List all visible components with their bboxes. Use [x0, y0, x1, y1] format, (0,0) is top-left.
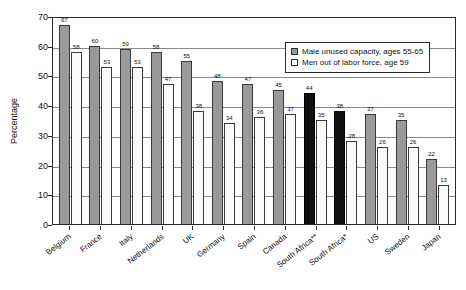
x-axis-tick-slot: Germany	[208, 226, 239, 286]
y-axis-tick-label: 70	[38, 12, 48, 22]
y-axis-tick-label: 10	[38, 190, 48, 200]
bar-value-label: 53	[104, 59, 111, 66]
bar-wrapper: 45	[273, 18, 284, 224]
bar	[396, 120, 407, 224]
bar	[242, 84, 253, 224]
bar-wrapper: 38	[193, 18, 204, 224]
bar-value-label: 47	[165, 76, 172, 83]
legend-item: Men out of labor force, age 59	[291, 57, 423, 68]
legend-item: Male unused capacity, ages 55-65	[291, 46, 423, 57]
bar-wrapper: 48	[212, 18, 223, 224]
bar-group: 5847	[147, 18, 178, 224]
bar	[120, 49, 131, 224]
bar	[438, 185, 449, 224]
legend-swatch-icon	[291, 59, 298, 66]
bar	[132, 67, 143, 224]
x-axis-tick-label-text: US	[366, 232, 380, 246]
bar-chart: Percentage 010203040506070 6758605359535…	[0, 0, 466, 290]
legend: Male unused capacity, ages 55-65 Men out…	[285, 42, 430, 73]
bar	[59, 25, 70, 224]
bar-value-label: 45	[275, 82, 282, 89]
bar-wrapper: 67	[59, 18, 70, 224]
bar-value-label: 47	[245, 76, 252, 83]
bar-group: 6758	[55, 18, 86, 224]
bar-wrapper: 58	[71, 18, 82, 224]
bar	[212, 81, 223, 224]
bar-value-label: 38	[336, 103, 343, 110]
bar-value-label: 48	[214, 73, 221, 80]
bar-value-label: 13	[440, 177, 447, 184]
y-axis-tick-label: 40	[38, 101, 48, 111]
bar-group: 5538	[177, 18, 208, 224]
bar-wrapper: 60	[89, 18, 100, 224]
y-axis-tick-label: 50	[38, 71, 48, 81]
y-axis: Percentage 010203040506070	[0, 17, 52, 225]
x-axis-tick-label-text: UK	[182, 232, 196, 246]
x-axis-tick-slot: Spain	[239, 226, 270, 286]
bar-value-label: 22	[428, 151, 435, 158]
bar-value-label: 44	[306, 85, 313, 92]
x-tick-labels: BelgiumFranceItalyNetherlandsUKGermanySp…	[52, 226, 456, 286]
x-axis: BelgiumFranceItalyNetherlandsUKGermanySp…	[52, 226, 456, 290]
bar-value-label: 59	[122, 41, 129, 48]
bar-wrapper: 13	[438, 18, 449, 224]
bar-wrapper: 53	[101, 18, 112, 224]
bar-value-label: 26	[410, 139, 417, 146]
bar	[163, 84, 174, 224]
bar	[254, 117, 265, 224]
bar	[408, 147, 419, 224]
bar-value-label: 37	[287, 106, 294, 113]
legend-item-label: Men out of labor force, age 59	[302, 57, 409, 68]
y-axis-title: Percentage	[9, 76, 19, 166]
x-axis-tick-slot: Netherlands	[146, 226, 177, 286]
bar-value-label: 60	[92, 38, 99, 45]
bar-group: 4736	[239, 18, 270, 224]
x-axis-tick-label-text: Belgium	[45, 232, 73, 257]
x-axis-tick-slot: Sweden	[392, 226, 423, 286]
bar-group: 6053	[86, 18, 117, 224]
plot-area: 6758605359535847553848344736453744353828…	[52, 17, 456, 225]
bar	[181, 61, 192, 224]
bar	[273, 90, 284, 224]
bar	[285, 114, 296, 224]
bar	[71, 52, 82, 224]
y-axis-tick-label: 30	[38, 131, 48, 141]
bar-wrapper: 47	[242, 18, 253, 224]
bar	[304, 93, 315, 224]
x-axis-tick-slot: France	[85, 226, 116, 286]
legend-item-label: Male unused capacity, ages 55-65	[302, 46, 423, 57]
bar-value-label: 35	[398, 112, 405, 119]
bar-value-label: 67	[61, 17, 68, 24]
bar	[316, 120, 327, 224]
bar-value-label: 55	[183, 53, 190, 60]
bar	[151, 52, 162, 224]
bar-wrapper: 58	[151, 18, 162, 224]
bar	[334, 111, 345, 224]
x-axis-tick-slot: Japan	[423, 226, 454, 286]
bar-wrapper: 36	[254, 18, 265, 224]
y-axis-tick-label: 0	[43, 220, 48, 230]
bar-wrapper: 55	[181, 18, 192, 224]
bar-value-label: 58	[153, 44, 160, 51]
y-axis-tick-label: 20	[38, 161, 48, 171]
x-axis-tick-slot: Belgium	[54, 226, 85, 286]
x-axis-tick-slot: South Africa*	[331, 226, 362, 286]
bar	[224, 123, 235, 224]
bar-group: 5953	[116, 18, 147, 224]
x-axis-tick-label-text: Italy	[117, 232, 134, 248]
bar-value-label: 53	[134, 59, 141, 66]
legend-swatch-icon	[291, 48, 298, 55]
bar-value-label: 37	[367, 106, 374, 113]
bar-wrapper: 34	[224, 18, 235, 224]
bar-value-label: 36	[257, 109, 264, 116]
bar-value-label: 38	[195, 103, 202, 110]
bar-value-label: 34	[226, 115, 233, 122]
x-axis-tick-label-text: Japan	[419, 232, 442, 253]
bar	[89, 46, 100, 224]
bar-value-label: 35	[318, 112, 325, 119]
bar-value-label: 28	[348, 133, 355, 140]
bar	[101, 67, 112, 224]
bar-group: 4834	[208, 18, 239, 224]
bar-wrapper: 59	[120, 18, 131, 224]
bar-wrapper: 47	[163, 18, 174, 224]
